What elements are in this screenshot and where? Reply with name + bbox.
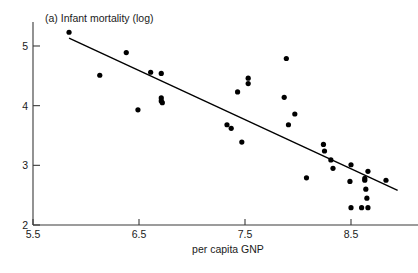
data-point [383, 178, 388, 183]
y-tick-label: 5 [22, 40, 28, 52]
data-point [359, 205, 364, 210]
data-point [159, 71, 164, 76]
data-point [348, 162, 353, 167]
x-tick-label: 5.5 [26, 228, 41, 240]
data-point [160, 100, 165, 105]
data-point [282, 95, 287, 100]
data-point [304, 175, 309, 180]
data-point [246, 81, 251, 86]
x-tick-label: 7.5 [238, 228, 253, 240]
data-point [322, 148, 327, 153]
data-point [239, 139, 244, 144]
chart-canvas: 2345 5.56.57.58.5 (a) Infant mortality (… [0, 0, 418, 273]
infant-mortality-scatter-figure: 2345 5.56.57.58.5 (a) Infant mortality (… [0, 0, 418, 273]
data-point [347, 179, 352, 184]
data-point [224, 122, 229, 127]
data-point [330, 166, 335, 171]
x-tick-label: 6.5 [132, 228, 147, 240]
data-point [363, 187, 368, 192]
data-point [286, 122, 291, 127]
data-point [246, 76, 251, 81]
data-point [124, 50, 129, 55]
regression-fit-line [69, 38, 398, 190]
y-tick-label: 3 [22, 159, 28, 171]
y-tick-label: 4 [22, 100, 28, 112]
data-point [148, 70, 153, 75]
panel-title: (a) Infant mortality (log) [45, 12, 154, 24]
data-point [97, 73, 102, 78]
data-point [66, 30, 71, 35]
data-point [135, 107, 140, 112]
x-axis-title: per capita GNP [192, 243, 264, 255]
x-tick-label: 8.5 [344, 228, 359, 240]
data-point [364, 196, 369, 201]
y-axis-ticks: 2345 [22, 40, 40, 231]
data-point [292, 111, 297, 116]
data-point [365, 169, 370, 174]
data-point [362, 178, 367, 183]
data-point [235, 89, 240, 94]
data-point [229, 126, 234, 131]
x-axis-ticks: 5.56.57.58.5 [26, 219, 359, 240]
data-point [348, 205, 353, 210]
data-point-group [66, 30, 388, 211]
data-point [284, 56, 289, 61]
data-point [365, 205, 370, 210]
data-point [321, 142, 326, 147]
